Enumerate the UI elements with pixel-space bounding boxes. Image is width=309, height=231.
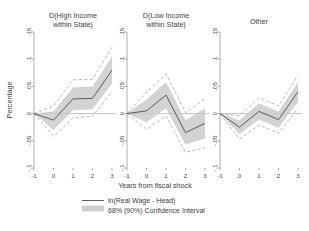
panel-1-y-tick-label: 0	[25, 111, 32, 115]
panel-3-x-tick-label: 3	[296, 172, 300, 179]
panel-1-y-tick-label: .15	[25, 27, 32, 36]
panel-2-y-tick-label: -.1	[118, 164, 125, 172]
panel-1-y-tick-label: .05	[25, 82, 32, 91]
panel-3-y-tick-label: .15	[211, 27, 218, 36]
panel-2-y-tick-label: .1	[118, 56, 125, 62]
panel-3-x-tick-label: -1	[217, 172, 223, 179]
panel-1-x-tick-label: 0	[52, 172, 56, 179]
legend: ln(Real Wage - Head)68% (90%) Confidence…	[82, 197, 205, 215]
panel-1-y-tick-label: -.05	[25, 135, 32, 146]
panel-2-y-tick-label: .05	[118, 82, 125, 91]
panel-3-title-line1: Other	[250, 17, 269, 26]
panel-2-title-line2: within State)	[145, 20, 186, 29]
panel-2-title-line1: D(Low Income	[143, 11, 189, 20]
panel-3: .15.1.050-.05-.1-10123Other	[211, 17, 302, 179]
panel-3-y-tick-label: -.1	[211, 164, 218, 172]
panel-3-y-tick-label: 0	[211, 111, 218, 115]
panel-3-y-tick-label: .05	[211, 82, 218, 91]
panel-2-x-tick-label: -1	[124, 172, 130, 179]
panel-2: .15.1.050-.05-.1-10123D(Low Incomewithin…	[118, 11, 209, 179]
panel-3-x-tick-label: 0	[238, 172, 242, 179]
y-axis-title: Percentage	[5, 82, 14, 119]
legend-label-estimate: ln(Real Wage - Head)	[108, 197, 175, 205]
figure-container: .15.1.050-.05-.1-10123D(High Incomewithi…	[0, 0, 309, 231]
panel-1-title-line2: within State)	[52, 20, 93, 29]
panel-1-x-tick-label: 1	[71, 172, 75, 179]
panel-3-y-tick-label: -.05	[211, 135, 218, 146]
panel-2-x-tick-label: 2	[184, 172, 188, 179]
panel-2-x-tick-label: 3	[203, 172, 207, 179]
legend-band-swatch	[82, 206, 104, 212]
panel-1-y-tick-label: .1	[25, 56, 32, 62]
legend-label-ci: 68% (90%) Confidence Interval	[108, 207, 205, 215]
panel-2-y-tick-label: 0	[118, 111, 125, 115]
panel-3-y-tick-label: .1	[211, 56, 218, 62]
panel-1-x-tick-label: 3	[110, 172, 114, 179]
panel-3-x-tick-label: 1	[257, 172, 261, 179]
panel-2-x-tick-label: 1	[164, 172, 168, 179]
x-axis-title: Years from fiscal shock	[118, 181, 192, 190]
panel-2-y-tick-label: .15	[118, 27, 125, 36]
panel-1-x-tick-label: -1	[31, 172, 37, 179]
panel-1-ci68-band	[34, 56, 112, 129]
panel-1: .15.1.050-.05-.1-10123D(High Incomewithi…	[25, 11, 116, 179]
panel-1-x-tick-label: 2	[91, 172, 95, 179]
panel-2-y-tick-label: -.05	[118, 135, 125, 146]
panel-3-x-tick-label: 2	[277, 172, 281, 179]
panel-1-y-tick-label: -.1	[25, 164, 32, 172]
panel-2-x-tick-label: 0	[145, 172, 149, 179]
panel-1-title-line1: D(High Income	[49, 11, 97, 20]
multi-panel-line-chart: .15.1.050-.05-.1-10123D(High Incomewithi…	[0, 0, 309, 231]
